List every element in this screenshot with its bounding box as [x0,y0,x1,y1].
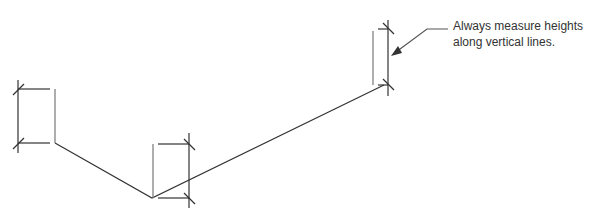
profile-line [55,85,384,198]
dimension-right [373,20,394,96]
leader-arrow [391,29,448,56]
dimension-middle [153,133,195,208]
dimension-left [13,80,55,153]
annotation-note: Always measure heights along vertical li… [453,18,583,50]
annotation-line-2: along vertical lines. [453,34,583,50]
annotation-line-1: Always measure heights [453,18,583,34]
